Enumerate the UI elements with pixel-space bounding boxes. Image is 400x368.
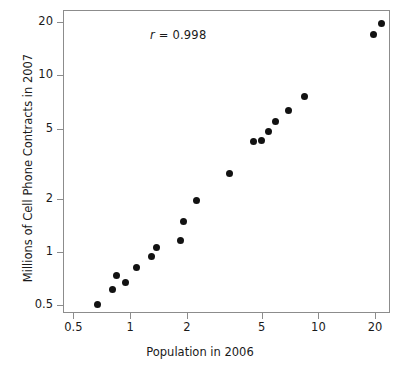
y-tick-label: 0.5 [35, 299, 53, 311]
y-tick-label: 20 [38, 16, 53, 28]
x-tick-label: 10 [311, 322, 326, 334]
data-point [265, 128, 272, 135]
data-point [180, 218, 187, 225]
x-tick-mark [130, 313, 131, 319]
data-point [109, 286, 116, 293]
x-tick-mark [73, 313, 74, 319]
y-tick-mark [57, 75, 63, 76]
data-point [370, 31, 377, 38]
data-point [193, 197, 200, 204]
data-point [250, 138, 257, 145]
data-point [258, 137, 265, 144]
plot-area: r = 0.998 [63, 10, 390, 313]
data-points-layer [64, 11, 389, 312]
data-point [94, 301, 101, 308]
scatter-plot-figure: r = 0.998 0.51251020 0.51251020 Millions… [0, 0, 400, 368]
data-point [153, 244, 160, 251]
x-axis-title: Population in 2006 [0, 345, 400, 359]
x-tick-mark [318, 313, 319, 319]
data-point [122, 279, 129, 286]
x-tick-label: 20 [368, 322, 383, 334]
data-point [148, 253, 155, 260]
data-point [226, 170, 233, 177]
correlation-annotation: r = 0.998 [150, 28, 206, 42]
x-tick-mark [262, 313, 263, 319]
x-tick-mark [375, 313, 376, 319]
y-tick-label: 2 [46, 193, 53, 205]
y-tick-mark [57, 22, 63, 23]
y-tick-mark [57, 305, 63, 306]
y-tick-mark [57, 252, 63, 253]
x-tick-label: 2 [183, 322, 190, 334]
y-tick-label: 1 [46, 246, 53, 258]
data-point [301, 93, 308, 100]
data-point [378, 20, 385, 27]
y-tick-label: 5 [46, 123, 53, 135]
data-point [113, 272, 120, 279]
y-tick-mark [57, 129, 63, 130]
x-tick-mark [187, 313, 188, 319]
data-point [272, 118, 279, 125]
x-tick-label: 5 [258, 322, 265, 334]
data-point [285, 107, 292, 114]
data-point [177, 237, 184, 244]
data-point [133, 264, 140, 271]
correlation-value-text: = 0.998 [155, 28, 206, 42]
x-tick-label: 1 [126, 322, 133, 334]
x-tick-label: 0.5 [64, 322, 82, 334]
y-axis-title: Millions of Cell Phone Contracts in 2007 [21, 38, 35, 298]
y-tick-label: 10 [38, 69, 53, 81]
y-tick-mark [57, 199, 63, 200]
